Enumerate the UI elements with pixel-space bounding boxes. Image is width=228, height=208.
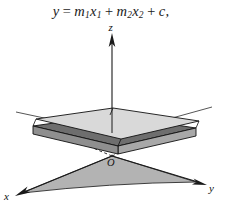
- plane-edge-left: [33, 119, 36, 126]
- z-axis-label: z: [108, 21, 114, 33]
- y-axis-label: y: [208, 182, 214, 194]
- x-axis-label: x: [3, 190, 9, 202]
- three-d-diagram: z y x O: [0, 0, 228, 208]
- origin-label: O: [107, 157, 115, 168]
- figure-root: y=m1x1+m2x2+c, z y x O: [0, 0, 228, 208]
